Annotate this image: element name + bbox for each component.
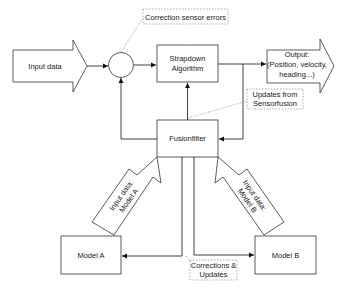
input-model-b-arrow: Input data: Model B — [215, 157, 284, 235]
block-diagram: Input data Strapdown Algorithm Output: (… — [0, 0, 348, 288]
summing-junction — [109, 53, 134, 78]
model-b-box: Model B — [255, 236, 316, 274]
note-corrections-line2: Updates — [200, 270, 228, 279]
note-corrections-line1: Corrections & — [191, 261, 236, 270]
output-arrow: Output: (Position, velocity, heading...) — [267, 39, 334, 93]
output-line3: heading...) — [279, 70, 315, 79]
model-b-label: Model B — [272, 251, 300, 260]
note-updates-line2: Sensorfusion — [253, 99, 297, 108]
fusionfilter-box: Fusionfilter — [157, 120, 218, 157]
strapdown-line1: Strapdown — [170, 54, 206, 63]
note-updates-line1: Updates from — [252, 90, 297, 99]
model-a-label: Model A — [77, 251, 104, 260]
strapdown-algorithm-box: Strapdown Algorithm — [157, 45, 218, 82]
output-line1: Output: — [285, 50, 310, 59]
fusionfilter-label: Fusionfilter — [169, 134, 206, 143]
output-line2: (Position, velocity, — [267, 60, 327, 69]
input-model-a-arrow: Input data: Model A — [92, 157, 161, 235]
connector-fusion-to-junction — [121, 78, 157, 139]
note-correction-label: Correction sensor errors — [145, 13, 226, 22]
note-corrections-updates: Corrections & Updates — [186, 256, 237, 280]
note-updates-from-sensorfusion: Updates from Sensorfusion — [188, 89, 303, 118]
model-a-box: Model A — [61, 236, 121, 274]
strapdown-line2: Algorithm — [172, 64, 204, 73]
connector-output-to-fusion — [219, 64, 243, 139]
input-data-arrow: Input data — [13, 40, 87, 92]
input-data-label: Input data — [28, 62, 62, 71]
